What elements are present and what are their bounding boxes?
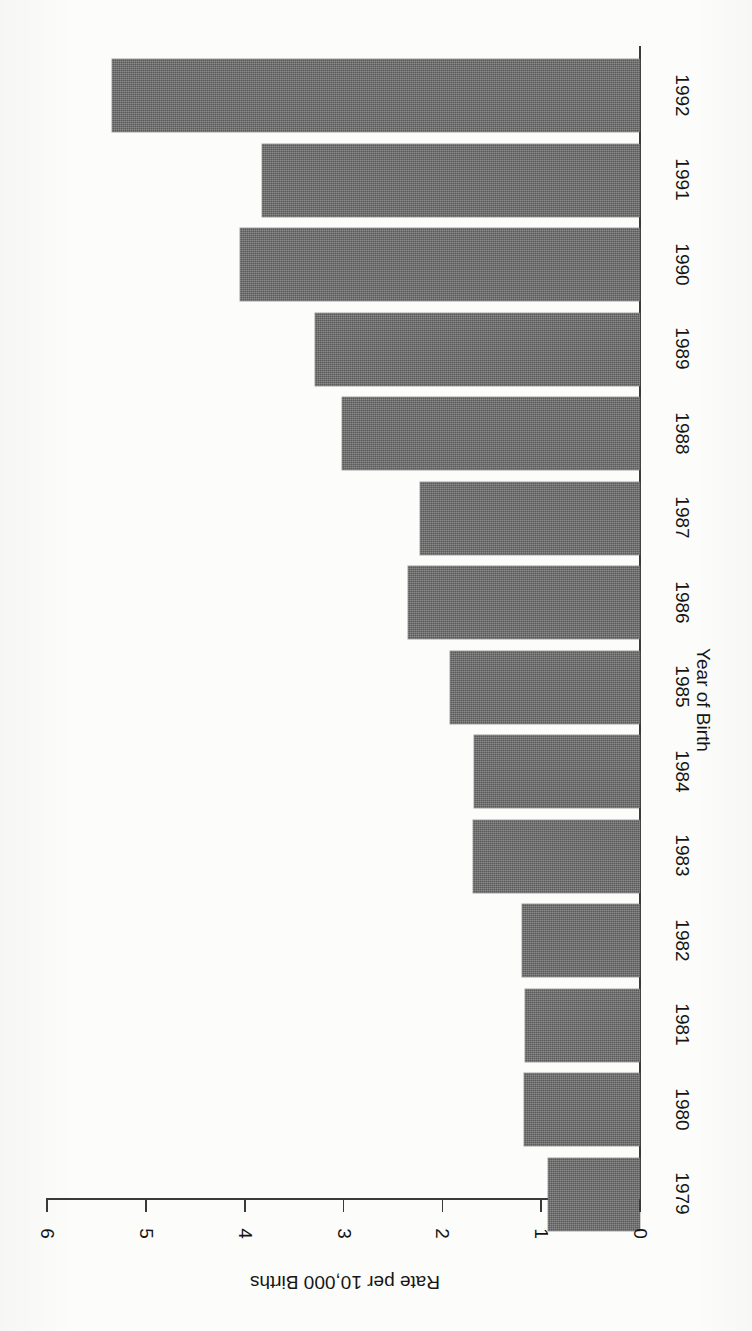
bar-1979 <box>548 1158 640 1231</box>
bar-1988 <box>342 397 640 470</box>
bar-1982 <box>522 904 640 977</box>
bar-1991 <box>262 144 640 217</box>
category-axis-title: Year of Birth <box>693 645 713 755</box>
category-tick-label-1982: 1982 <box>673 895 692 985</box>
bar-1989 <box>315 313 640 386</box>
value-tick-0 <box>639 1199 641 1212</box>
value-tick-label-4: 4 <box>235 1214 254 1254</box>
value-tick-label-2: 2 <box>433 1214 452 1254</box>
value-tick-5 <box>145 1199 147 1212</box>
category-tick-label-1981: 1981 <box>673 980 692 1070</box>
bar-1981 <box>525 989 640 1062</box>
category-tick-label-1987: 1987 <box>673 473 692 563</box>
category-tick-label-1990: 1990 <box>673 219 692 309</box>
bar-1984 <box>474 735 640 808</box>
value-axis-title: Rate per 10,000 Births <box>225 1272 465 1292</box>
value-tick-label-3: 3 <box>334 1214 353 1254</box>
bar-1983 <box>473 820 640 893</box>
category-tick-label-1988: 1988 <box>673 388 692 478</box>
value-tick-label-5: 5 <box>137 1214 156 1254</box>
value-tick-label-6: 6 <box>38 1214 57 1254</box>
bar-1987 <box>420 482 640 555</box>
bar-1985 <box>450 651 640 724</box>
value-tick-1 <box>540 1199 542 1212</box>
category-tick-label-1986: 1986 <box>673 557 692 647</box>
category-tick-label-1983: 1983 <box>673 811 692 901</box>
category-tick-label-1979: 1979 <box>673 1149 692 1239</box>
category-tick-label-1991: 1991 <box>673 135 692 225</box>
value-tick-label-0: 0 <box>631 1214 650 1254</box>
value-tick-4 <box>244 1199 246 1212</box>
bar-1980 <box>524 1073 640 1146</box>
bar-1992 <box>112 59 640 132</box>
value-tick-label-1: 1 <box>532 1214 551 1254</box>
value-tick-2 <box>442 1199 444 1212</box>
value-tick-6 <box>46 1199 48 1212</box>
bar-1986 <box>408 566 640 639</box>
bar-1990 <box>240 228 640 301</box>
category-tick-label-1992: 1992 <box>673 50 692 140</box>
bar-chart: 1992199119901989198819871986198519841983… <box>0 0 752 1331</box>
category-tick-label-1989: 1989 <box>673 304 692 394</box>
category-tick-label-1985: 1985 <box>673 642 692 732</box>
category-tick-label-1984: 1984 <box>673 726 692 816</box>
category-tick-label-1980: 1980 <box>673 1064 692 1154</box>
value-tick-3 <box>343 1199 345 1212</box>
